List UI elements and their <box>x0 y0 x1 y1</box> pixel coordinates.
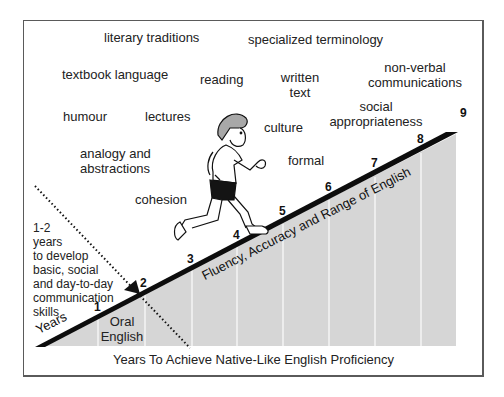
year-marker-4: 4 <box>233 228 240 242</box>
year-marker-2: 2 <box>140 276 147 290</box>
label-textbook-language: textbook language <box>62 67 168 82</box>
label-reading: reading <box>200 72 243 87</box>
label-non-verbal-communications: non-verbal communications <box>360 60 470 90</box>
label-cohesion: cohesion <box>135 192 187 207</box>
year-marker-3: 3 <box>187 252 194 266</box>
label-specialized-terminology: specialized terminology <box>248 32 383 47</box>
label-literary-traditions: literary traditions <box>104 30 199 45</box>
label-written-text: written text <box>270 70 330 100</box>
year-marker-6: 6 <box>325 180 332 194</box>
year-marker-8: 8 <box>417 132 424 146</box>
year-marker-5: 5 <box>279 204 286 218</box>
oral-english-label: Oral English <box>100 314 144 344</box>
year-marker-9: 9 <box>460 106 467 120</box>
diagram-title: Years To Achieve Native-Like English Pro… <box>23 352 484 367</box>
year-marker-7: 7 <box>371 156 378 170</box>
label-social-appropriateness: social appropriateness <box>316 99 436 129</box>
label-formal: formal <box>288 153 324 168</box>
runner-figure <box>175 114 269 240</box>
year-marker-1: 1 <box>94 300 101 314</box>
label-analogy-and-abstractions: analogy and abstractions <box>80 146 151 176</box>
label-lectures: lectures <box>145 109 191 124</box>
note-basic-skills: 1-2 years to develop basic, social and d… <box>33 221 114 319</box>
label-humour: humour <box>63 109 107 124</box>
label-culture: culture <box>264 120 303 135</box>
